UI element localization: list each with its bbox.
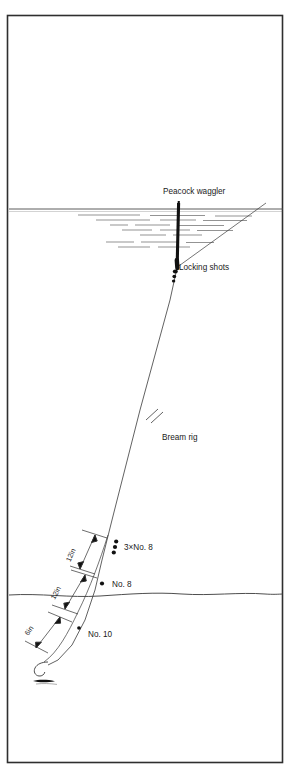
peacock-waggler-float bbox=[177, 201, 179, 268]
label-locking-shots: Locking shots bbox=[179, 263, 229, 272]
bream-rig-figure: 12in 12in 6in Peacock waggler Locking sh… bbox=[0, 0, 298, 777]
figure-frame bbox=[8, 16, 283, 763]
label-peacock-waggler: Peacock waggler bbox=[163, 187, 226, 196]
label-3x-no8: 3×No. 8 bbox=[124, 543, 153, 552]
label-no8: No. 8 bbox=[112, 580, 132, 589]
shot-no10 bbox=[77, 626, 81, 630]
shot-no8 bbox=[100, 582, 104, 586]
label-bream-rig: Bream rig bbox=[162, 433, 198, 442]
label-no10: No. 10 bbox=[88, 630, 113, 639]
